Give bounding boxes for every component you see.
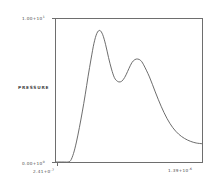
pressure-curve-path	[56, 30, 202, 162]
x-axis-left-tick-exponent: -7	[51, 168, 55, 172]
x-axis-left-tick-label: 2.41+0-7	[33, 169, 54, 175]
x-axis-right-tick-exponent: -6	[189, 167, 193, 171]
x-axis-right-tick-mantissa: 1.39+10	[168, 168, 189, 173]
plot-area	[55, 18, 203, 163]
pressure-curve-svg	[56, 19, 202, 162]
x-axis-left-tick-mantissa: 2.41+0	[33, 169, 51, 174]
chart-figure: PRESSURE 1.00+101 0.00+100 2.41+0-7 1.39…	[0, 0, 215, 187]
y-axis-bottom-tick-mantissa: 0.00+10	[22, 161, 43, 166]
x-axis-right-tick-label: 1.39+10-6	[168, 168, 192, 174]
y-axis-bottom-tick-label: 0.00+100	[22, 161, 45, 167]
y-axis-top-tick-mantissa: 1.00+10	[22, 16, 43, 21]
y-axis-top-tick-exponent: 1	[43, 15, 45, 19]
y-axis-top-tick-label: 1.00+101	[22, 16, 45, 22]
x-axis-start-tick-mark	[57, 163, 58, 166]
y-axis-title: PRESSURE	[18, 86, 49, 90]
y-axis-bottom-tick-exponent: 0	[43, 160, 45, 164]
